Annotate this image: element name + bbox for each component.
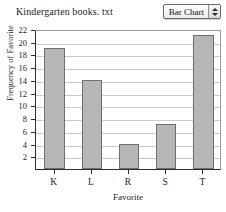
x-tick-mark xyxy=(54,170,55,174)
y-tick-mark xyxy=(31,43,35,44)
triangle-up-icon[interactable] xyxy=(212,8,218,11)
y-tick-label: 22 xyxy=(11,26,27,34)
x-tick-label-L: L xyxy=(81,177,101,187)
y-tick-label: 2 xyxy=(11,153,27,161)
y-tick-mark xyxy=(31,106,35,107)
bar-L[interactable] xyxy=(82,80,102,169)
plot-area xyxy=(35,30,221,170)
file-title: Kindergarten books. txt xyxy=(16,6,113,17)
bar-K[interactable] xyxy=(44,48,64,169)
y-tick-label: 14 xyxy=(11,77,27,85)
chart-window: Kindergarten books. txt Bar Chart Freque… xyxy=(0,0,226,212)
chart-type-value: Bar Chart xyxy=(164,5,208,18)
bar-S[interactable] xyxy=(156,124,176,169)
y-tick-label: 4 xyxy=(11,141,27,149)
bar-T[interactable] xyxy=(193,35,213,169)
x-tick-label-R: R xyxy=(118,177,138,187)
chart-type-stepper[interactable] xyxy=(208,5,220,18)
y-tick-mark xyxy=(31,81,35,82)
x-tick-mark xyxy=(128,170,129,174)
y-tick-mark xyxy=(31,132,35,133)
y-tick-label: 20 xyxy=(11,39,27,47)
y-tick-mark xyxy=(31,145,35,146)
y-tick-mark xyxy=(31,68,35,69)
y-tick-label: 8 xyxy=(11,115,27,123)
y-tick-label: 10 xyxy=(11,102,27,110)
x-axis-title: Favorite xyxy=(35,192,221,202)
x-tick-mark xyxy=(91,170,92,174)
y-tick-mark xyxy=(31,55,35,56)
x-tick-mark xyxy=(165,170,166,174)
chart-type-dropdown[interactable]: Bar Chart xyxy=(163,4,221,19)
y-tick-mark xyxy=(31,157,35,158)
x-tick-mark xyxy=(202,170,203,174)
y-tick-mark xyxy=(31,94,35,95)
y-tick-mark xyxy=(31,119,35,120)
y-tick-label: 16 xyxy=(11,64,27,72)
x-tick-label-T: T xyxy=(192,177,212,187)
y-tick-label: 6 xyxy=(11,128,27,136)
chart-header: Kindergarten books. txt Bar Chart xyxy=(0,0,226,26)
y-tick-label: 12 xyxy=(11,90,27,98)
y-tick-label: 18 xyxy=(11,51,27,59)
x-tick-label-S: S xyxy=(155,177,175,187)
triangle-down-icon[interactable] xyxy=(212,13,218,16)
x-tick-label-K: K xyxy=(44,177,64,187)
y-tick-mark xyxy=(31,30,35,31)
bar-R[interactable] xyxy=(119,144,139,169)
